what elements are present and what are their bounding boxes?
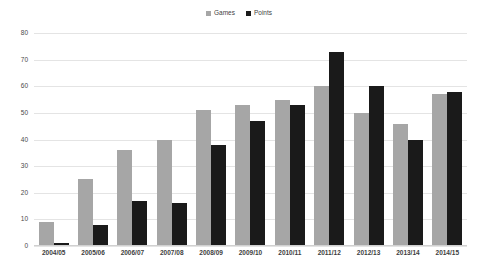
y-axis-tick-label: 70 (21, 56, 28, 63)
bar-points[interactable] (93, 225, 108, 246)
bar-games[interactable] (78, 179, 93, 246)
x-axis-tick-label: 2004/05 (34, 250, 73, 257)
x-axis-tick-label: 2010/11 (270, 250, 309, 257)
y-axis-tick-label: 60 (21, 83, 28, 90)
bar-games[interactable] (393, 124, 408, 246)
bar-games[interactable] (432, 94, 447, 246)
bar-group (388, 33, 427, 246)
bar-points[interactable] (172, 203, 187, 246)
x-axis-tick-label: 2008/09 (191, 250, 230, 257)
gridline: 0 (34, 246, 467, 247)
y-axis-tick-label: 80 (21, 30, 28, 37)
bar-group (270, 33, 309, 246)
x-axis-tick-label: 2013/14 (388, 250, 427, 257)
bar-groups (34, 33, 467, 246)
y-axis-tick-label: 30 (21, 163, 28, 170)
bar-games[interactable] (196, 110, 211, 246)
bar-points[interactable] (408, 140, 423, 247)
bar-group (349, 33, 388, 246)
bar-games[interactable] (157, 140, 172, 247)
bar-points[interactable] (132, 201, 147, 246)
bar-group (231, 33, 270, 246)
legend-entry[interactable]: Points (246, 10, 272, 17)
chart-legend: GamesPoints (0, 8, 478, 18)
legend-swatch-icon (246, 11, 251, 16)
bar-points[interactable] (447, 92, 462, 246)
bar-group (310, 33, 349, 246)
y-axis-tick-label: 50 (21, 110, 28, 117)
bar-group (34, 33, 73, 246)
legend-label: Games (214, 10, 235, 17)
x-axis-tick-label: 2006/07 (113, 250, 152, 257)
bar-games[interactable] (235, 105, 250, 246)
y-axis-tick-label: 20 (21, 190, 28, 197)
bar-points[interactable] (329, 52, 344, 246)
x-axis-labels: 2004/052005/062006/072007/082008/092009/… (34, 250, 467, 257)
bar-games[interactable] (117, 150, 132, 246)
x-axis-tick-label: 2007/08 (152, 250, 191, 257)
x-axis-baseline (34, 245, 467, 246)
y-axis-tick-label: 10 (21, 216, 28, 223)
x-axis-tick-label: 2005/06 (73, 250, 112, 257)
bar-games[interactable] (314, 86, 329, 246)
bar-points[interactable] (290, 105, 305, 246)
bar-games[interactable] (39, 222, 54, 246)
legend-swatch-icon (206, 11, 211, 16)
plot-area: 80706050403020100 (34, 33, 467, 246)
x-axis-tick-label: 2012/13 (349, 250, 388, 257)
legend-entry[interactable]: Games (206, 10, 235, 17)
bar-group (191, 33, 230, 246)
bar-group (428, 33, 467, 246)
bar-points[interactable] (211, 145, 226, 246)
bar-group (73, 33, 112, 246)
x-axis-tick-label: 2009/10 (231, 250, 270, 257)
y-axis-tick-label: 40 (21, 136, 28, 143)
x-axis-tick-label: 2014/15 (428, 250, 467, 257)
bar-points[interactable] (369, 86, 384, 246)
bar-group (152, 33, 191, 246)
x-axis-tick-label: 2011/12 (310, 250, 349, 257)
y-axis-tick-label: 0 (24, 243, 28, 250)
bar-games[interactable] (354, 113, 369, 246)
bar-group (113, 33, 152, 246)
bar-games[interactable] (275, 100, 290, 246)
bar-chart: GamesPoints 80706050403020100 2004/05200… (0, 0, 478, 273)
legend-label: Points (254, 10, 272, 17)
bar-points[interactable] (250, 121, 265, 246)
